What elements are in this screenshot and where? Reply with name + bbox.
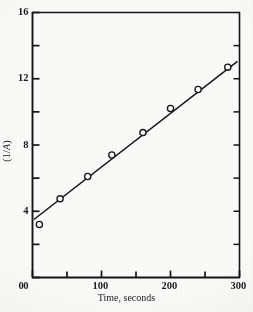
y-tick-label-12: 12 [0,73,29,84]
y-tick-label-4: 4 [0,206,29,217]
data-point-marker [85,173,91,179]
y-axis-title-prefix: (1/ [1,150,12,162]
data-point-marker [109,152,115,158]
y-axis-title-suffix: ) [1,140,12,144]
secondary-axis-ticks [234,46,240,245]
data-point-marker [225,64,231,70]
data-point-group [36,64,231,228]
y-axis-title: (1/A) [2,128,12,174]
data-point-marker [195,86,201,92]
y-tick-label-16: 16 [0,7,29,18]
y-axis-title-variable: A [1,144,12,150]
data-point-marker [36,221,42,227]
x-tick-label-300: 300 [0,281,253,292]
data-point-marker [167,105,173,111]
fit-line [34,61,238,219]
plot-area [0,0,253,312]
data-point-marker [140,129,146,135]
axis-spines [32,12,240,278]
data-point-marker [57,196,63,202]
figure-container: 16 12 8 4 0 0 100 200 300 Time, seconds … [0,0,253,312]
y-axis-ticks [33,13,40,278]
x-axis-ticks [33,271,240,278]
x-axis-title: Time, seconds [0,293,253,303]
